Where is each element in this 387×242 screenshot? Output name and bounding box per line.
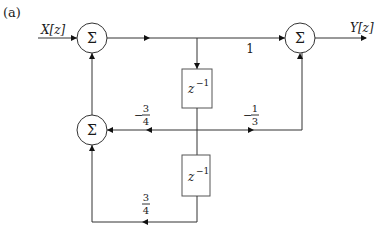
gain-feedback-first: − 3 4 [134, 103, 150, 127]
output-label: Y[z] [350, 21, 374, 35]
delay-lower: z −1 [182, 155, 210, 196]
svg-text:−1: −1 [196, 78, 209, 88]
svg-text:4: 4 [143, 116, 149, 127]
arrow-icon [89, 145, 95, 151]
sum-bottom-left: Σ [77, 115, 107, 145]
arrow-icon [107, 127, 113, 133]
svg-text:z: z [187, 82, 195, 96]
arrow-icon [89, 53, 95, 59]
svg-text:3: 3 [252, 116, 258, 127]
svg-text:−1: −1 [196, 166, 209, 176]
sum-top-right: Σ [285, 23, 315, 53]
gain-feedforward-first: − 1 3 [243, 103, 259, 127]
arrow-icon [142, 219, 148, 225]
svg-text:3: 3 [143, 192, 149, 203]
block-diagram: (a) X[z] Σ 1 Σ Y[z] z −1 − 3 4 [0, 0, 387, 242]
figure-label: (a) [3, 5, 21, 20]
svg-text:z: z [187, 170, 195, 184]
sigma-symbol: Σ [87, 30, 97, 46]
gain-feedback-second: 3 4 [142, 192, 150, 216]
arrow-icon [144, 35, 150, 41]
svg-text:4: 4 [143, 205, 149, 216]
delay-upper: z −1 [182, 69, 212, 108]
arrow-icon [71, 35, 77, 41]
svg-text:3: 3 [143, 103, 149, 114]
input-label: X[z] [40, 23, 66, 37]
sum-top-left: Σ [77, 23, 107, 53]
arrow-icon [279, 35, 285, 41]
arrow-icon [361, 35, 367, 41]
arrow-icon [146, 127, 152, 133]
sigma-symbol: Σ [87, 122, 97, 138]
svg-text:1: 1 [252, 103, 258, 114]
sigma-symbol: Σ [295, 30, 305, 46]
arrow-icon [248, 127, 254, 133]
gain-direct: 1 [246, 42, 254, 56]
arrow-icon [194, 63, 200, 69]
